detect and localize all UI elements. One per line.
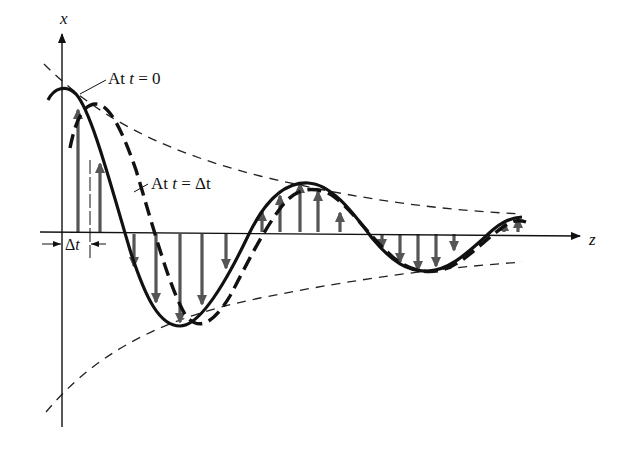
label-at-t0-prefix: At bbox=[108, 69, 129, 88]
wave-at-t0 bbox=[48, 88, 522, 326]
label-at-t0-suffix: = 0 bbox=[134, 69, 161, 88]
label-at-t0: At t = 0 bbox=[108, 69, 161, 88]
lower-envelope bbox=[46, 262, 522, 412]
z-axis-label: z bbox=[588, 230, 596, 249]
label-at-tdt: At t = Δt bbox=[151, 174, 211, 193]
delta-symbol: Δ bbox=[65, 236, 75, 253]
z-axis bbox=[40, 232, 580, 236]
label-at-tdt-prefix: At bbox=[151, 174, 172, 193]
x-axis-label: x bbox=[59, 9, 68, 28]
damped-wave-diagram: x z At t = 0 At t = Δt Δt bbox=[0, 0, 624, 452]
wave-at-t-delta bbox=[70, 104, 526, 324]
leader-t0 bbox=[80, 80, 106, 94]
delta-t-var: t bbox=[75, 236, 80, 253]
delta-t-label: Δt bbox=[65, 236, 80, 253]
label-at-tdt-suffix: = Δt bbox=[177, 174, 211, 193]
